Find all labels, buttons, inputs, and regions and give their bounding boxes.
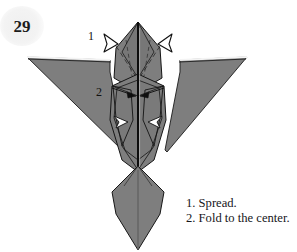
step-marker-2: 2 [96, 86, 102, 98]
wing-right-surface [165, 57, 247, 152]
center-spine [138, 22, 140, 172]
caption-line-1: 1. Spread. [186, 196, 294, 211]
page-container: 29 1 2 1. Spread. 2. Fold to the center. [0, 0, 297, 252]
wing-right [165, 57, 247, 152]
page-number-badge: 29 [0, 6, 44, 46]
caption-line-2: 2. Fold to the center. [186, 211, 294, 226]
tail-section [112, 166, 164, 250]
step-marker-1: 1 [88, 30, 94, 42]
page-number: 29 [14, 18, 31, 35]
caption: 1. Spread. 2. Fold to the center. [186, 196, 294, 225]
